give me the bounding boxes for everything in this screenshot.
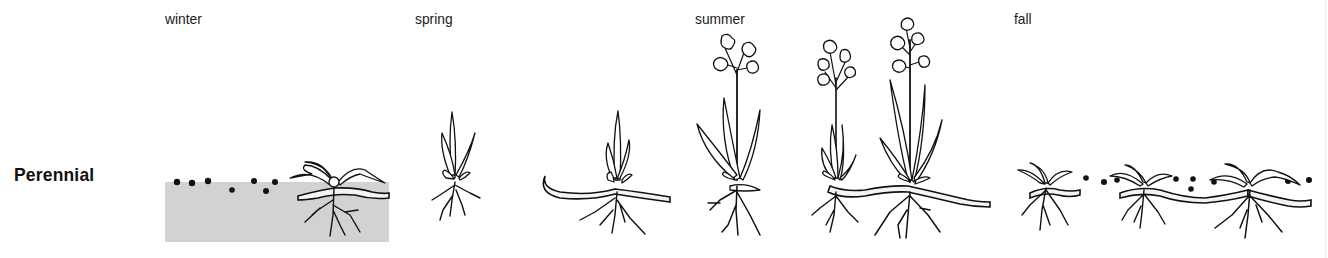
dormant-plant-icon	[1018, 163, 1080, 230]
right-edge-divider	[1325, 0, 1326, 258]
flowering-plant-icon	[875, 18, 942, 238]
flowering-plant-icon	[697, 34, 760, 235]
summer-fall-illustration	[0, 0, 1328, 258]
